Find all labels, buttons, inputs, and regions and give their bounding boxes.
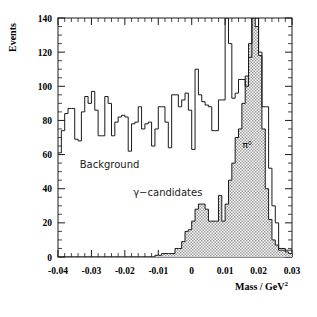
y-tick-label: 120	[38, 48, 53, 58]
background-label: Background	[80, 159, 140, 170]
x-axis-title-main: Mass / GeV	[235, 281, 285, 292]
y-tick-label: 40	[43, 184, 53, 194]
x-tick-label: 0.03	[284, 266, 301, 276]
histogram-figure: 020406080100120140 -0.04-0.03-0.02-0.010…	[0, 0, 317, 317]
y-tick-label: 100	[38, 82, 53, 92]
gamma-candidates-fill	[58, 18, 292, 257]
gamma-candidates-label: γ−candidates	[133, 187, 202, 198]
y-tick-label: 80	[43, 116, 53, 126]
x-tick-label: -0.01	[148, 266, 168, 276]
x-tick-label: -0.04	[48, 266, 68, 276]
y-tick-label: 60	[43, 150, 53, 160]
x-axis-title-superscript: 2	[285, 280, 289, 288]
annotation-group: Backgroundγ−candidatesπ⁰	[80, 140, 252, 198]
plot-svg: 020406080100120140 -0.04-0.03-0.02-0.010…	[0, 0, 317, 317]
x-tick-label: -0.03	[82, 266, 102, 276]
x-tick-label: 0.02	[250, 266, 267, 276]
y-axis-title: Events	[7, 23, 18, 52]
series-gamma-candidates	[58, 18, 292, 257]
x-tick-label: -0.02	[115, 266, 135, 276]
y-tick-label: 0	[47, 253, 52, 263]
x-tick-label: 0	[189, 266, 194, 276]
y-tick-label: 140	[38, 14, 53, 24]
pi0-label: π⁰	[243, 140, 252, 150]
y-tick-label: 20	[43, 218, 53, 228]
x-tick-label: 0.01	[217, 266, 234, 276]
x-axis-title: Mass / GeV2	[235, 280, 288, 292]
